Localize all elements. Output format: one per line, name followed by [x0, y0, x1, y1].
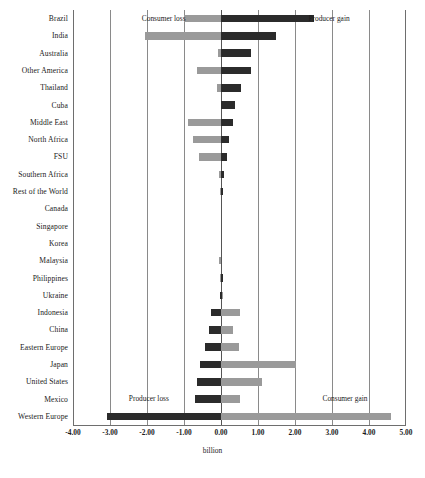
category-label: China [49, 325, 68, 334]
bar-segment-producer [107, 413, 221, 421]
bar-row [73, 153, 406, 161]
category-label: FSU [54, 152, 68, 161]
category-label: Korea [49, 239, 68, 248]
bar-segment-producer [221, 15, 314, 23]
bar-row [73, 343, 406, 351]
category-label: Philippines [33, 274, 68, 283]
x-tick-label: -1.00 [176, 428, 191, 437]
bar-segment-producer [221, 153, 227, 161]
bar-segment-consumer [184, 15, 221, 23]
x-tick-label: 3.00 [326, 428, 339, 437]
bar-segment-producer [220, 292, 222, 300]
category-label: Middle East [30, 118, 68, 127]
bar-segment-consumer [193, 136, 221, 144]
category-label: Western Europe [18, 412, 68, 421]
bar-segment-producer [195, 395, 221, 403]
category-label: Canada [45, 204, 68, 213]
category-label: Brazil [49, 14, 68, 23]
bar-segment-consumer [197, 67, 221, 75]
bar-row [73, 32, 406, 40]
bar-segment-consumer [221, 413, 391, 421]
bar-segment-producer [221, 101, 235, 109]
category-label: Ukraine [43, 291, 68, 300]
category-label: Rest of the World [13, 187, 68, 196]
bar-segment-consumer [221, 361, 296, 369]
bar-segment-producer [221, 119, 233, 127]
bar-segment-producer [221, 32, 276, 40]
category-label: India [52, 31, 68, 40]
category-label: Singapore [36, 222, 68, 231]
category-label: Eastern Europe [20, 343, 68, 352]
bar-chart: BrazilIndiaAustraliaOther AmericaThailan… [0, 0, 425, 478]
category-label: United States [26, 377, 68, 386]
category-label: Indonesia [38, 308, 68, 317]
bar-segment-producer [209, 326, 221, 334]
plot-area: Consumer lossProducer gainProducer lossC… [73, 10, 406, 425]
bar-row [73, 413, 406, 421]
bar-row [73, 240, 406, 248]
x-tick-label: -4.00 [65, 428, 80, 437]
bar-row [73, 326, 406, 334]
bar-row [73, 15, 406, 23]
bar-segment-consumer [221, 309, 240, 317]
quadrant-annotation: Producer gain [308, 14, 349, 23]
bar-segment-consumer [199, 153, 221, 161]
x-tick-label: 5.00 [400, 428, 413, 437]
bar-row [73, 136, 406, 144]
bar-row [73, 222, 406, 230]
bar-row [73, 274, 406, 282]
bar-segment-producer [221, 67, 251, 75]
bar-row [73, 119, 406, 127]
bar-segment-consumer [221, 395, 240, 403]
category-label: Australia [39, 49, 68, 58]
bar-row [73, 171, 406, 179]
x-tick-label: 4.00 [363, 428, 376, 437]
bar-segment-producer [197, 378, 221, 386]
bar-segment-producer [200, 361, 221, 369]
quadrant-annotation: Producer loss [129, 394, 169, 403]
bar-row [73, 101, 406, 109]
quadrant-annotation: Consumer gain [322, 394, 367, 403]
x-tick-label: 2.00 [289, 428, 302, 437]
category-label: Other America [22, 66, 68, 75]
quadrant-annotation: Consumer loss [142, 14, 186, 23]
bar-row [73, 205, 406, 213]
x-axis-title: billion [0, 446, 425, 455]
bar-row [73, 257, 406, 265]
category-label: Southern Africa [18, 170, 68, 179]
bar-segment-producer [211, 309, 221, 317]
category-axis: BrazilIndiaAustraliaOther AmericaThailan… [0, 10, 68, 425]
category-label: Cuba [52, 101, 68, 110]
bar-row [73, 84, 406, 92]
bar-segment-consumer [188, 119, 221, 127]
bar-segment-consumer [221, 378, 262, 386]
bar-segment-producer [205, 343, 221, 351]
x-axis-line [73, 425, 406, 426]
bar-row [73, 309, 406, 317]
category-label: Malaysia [39, 256, 68, 265]
x-tick-label: 0.00 [215, 428, 228, 437]
bar-row [73, 67, 406, 75]
bar-row [73, 188, 406, 196]
bar-segment-producer [221, 49, 251, 57]
x-tick-label: 1.00 [252, 428, 265, 437]
bar-segment-consumer [221, 326, 233, 334]
x-tick-label: -3.00 [102, 428, 117, 437]
bar-row [73, 361, 406, 369]
category-label: Mexico [44, 395, 68, 404]
bar-segment-producer [221, 188, 223, 196]
category-label: Thailand [40, 83, 68, 92]
bar-segment-producer [221, 136, 229, 144]
bar-segment-consumer [221, 343, 239, 351]
bar-segment-consumer [145, 32, 221, 40]
bar-segment-producer [221, 274, 223, 282]
bar-row [73, 292, 406, 300]
category-label: North Africa [28, 135, 68, 144]
bar-row [73, 378, 406, 386]
category-label: Japan [50, 360, 68, 369]
bar-row [73, 49, 406, 57]
bar-segment-producer [221, 84, 241, 92]
bar-segment-producer [221, 171, 224, 179]
x-tick-label: -2.00 [139, 428, 154, 437]
bar-segment-consumer [219, 257, 221, 265]
